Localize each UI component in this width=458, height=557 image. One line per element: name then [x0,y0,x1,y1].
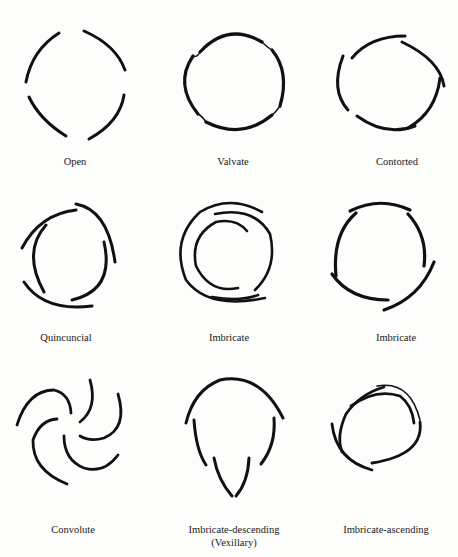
imbricate-ascending-aestivation-drawing [0,0,458,557]
diagram-label: Imbricate-ascending [343,523,429,536]
